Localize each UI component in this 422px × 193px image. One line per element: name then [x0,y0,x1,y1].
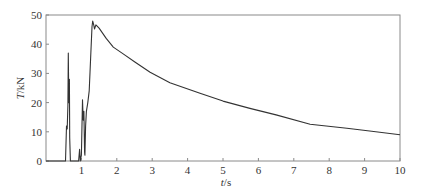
y-tick-label: 30 [31,67,43,79]
x-tick-label: 6 [256,164,262,176]
x-tick-label: 3 [149,164,155,176]
y-tick-label: 0 [37,155,43,167]
x-tick-label: 10 [395,164,407,176]
line-chart: 01020304050 12345678910 T/kN t/s [0,0,422,193]
y-tick-label: 40 [31,38,43,50]
x-tick-label: 1 [79,164,85,176]
x-tick-label: 4 [185,164,191,176]
y-tick-label: 20 [31,97,43,109]
y-tick-label: 10 [31,126,43,138]
plot-border [46,15,400,161]
y-tick-label: 50 [31,9,43,21]
x-axis-label: t/s [221,176,231,188]
x-tick-label: 8 [326,164,332,176]
series-line [46,21,400,161]
plot-frame [46,15,400,161]
y-axis-label: T/kN [14,77,26,100]
x-tick-label: 2 [114,164,120,176]
series-lines [46,21,400,161]
x-tick-label: 7 [291,164,297,176]
x-tick-label: 9 [362,164,368,176]
x-tick-label: 5 [220,164,226,176]
